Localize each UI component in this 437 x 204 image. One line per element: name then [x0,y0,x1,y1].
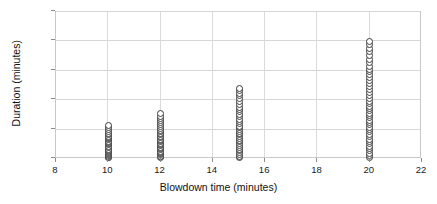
x-gridline [264,12,265,157]
x-gridline [212,12,213,157]
y-gridline [56,11,420,12]
x-tick-label: 12 [154,165,165,175]
x-axis-title: Blowdown time (minutes) [0,182,437,193]
y-tick-mark [51,39,55,40]
x-tick-mark [55,158,56,162]
y-tick-mark [51,10,55,11]
x-tick-mark [421,158,422,162]
x-tick-mark [212,158,213,162]
scatter-plot-figure: Duration (minutes) Blowdown time (minute… [0,0,437,204]
y-axis-title: Duration (minutes) [11,13,22,153]
y-tick-mark [51,69,55,70]
x-tick-mark [160,158,161,162]
data-point-marker [157,110,164,117]
data-point-marker [236,85,243,92]
y-tick-mark [51,128,55,129]
x-tick-mark [369,158,370,162]
data-point-marker [105,122,112,129]
x-tick-label: 14 [207,165,218,175]
plot-area [55,11,421,158]
x-gridline [316,12,317,157]
x-tick-mark [264,158,265,162]
x-tick-mark [316,158,317,162]
x-tick-mark [107,158,108,162]
x-tick-label: 18 [311,165,322,175]
x-tick-label: 16 [259,165,270,175]
x-tick-label: 8 [52,165,57,175]
y-tick-mark [51,98,55,99]
x-tick-label: 22 [416,165,427,175]
x-tick-label: 20 [363,165,374,175]
x-tick-label: 10 [102,165,113,175]
